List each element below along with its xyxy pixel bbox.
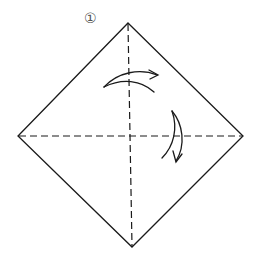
fold-right-arrow-icon xyxy=(104,70,158,92)
diagram-canvas xyxy=(0,0,260,266)
vertical-crease-line xyxy=(128,24,132,246)
